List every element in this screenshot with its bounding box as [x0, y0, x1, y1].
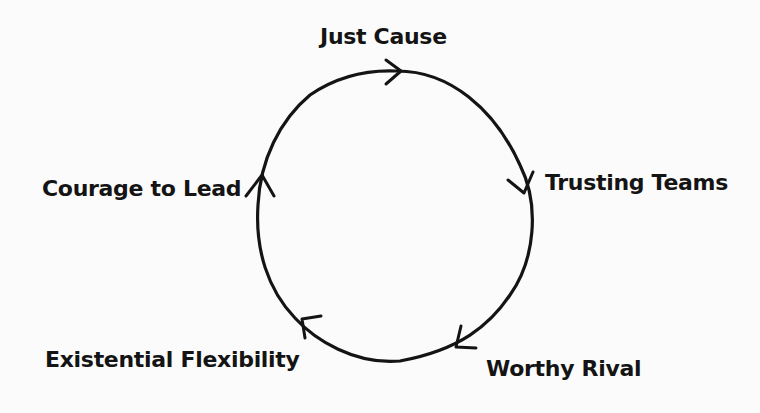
node-label-courage-to-lead: Courage to Lead: [42, 178, 241, 200]
cycle-diagram: Just Cause Trusting Teams Worthy Rival E…: [0, 0, 760, 413]
node-label-worthy-rival: Worthy Rival: [486, 358, 641, 380]
node-label-existential-flexibility: Existential Flexibility: [45, 349, 300, 371]
node-label-just-cause: Just Cause: [320, 26, 447, 48]
cycle-circle: [258, 71, 533, 362]
node-label-trusting-teams: Trusting Teams: [545, 172, 728, 194]
